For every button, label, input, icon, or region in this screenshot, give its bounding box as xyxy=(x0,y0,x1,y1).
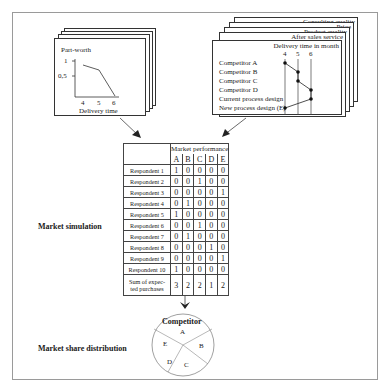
arrow-head-right xyxy=(222,129,230,137)
group-header: Market performance xyxy=(171,144,229,155)
pie-title: Competitor xyxy=(162,317,202,326)
pie-segment-c: C xyxy=(184,361,189,369)
market-simulation-label: Market simulation xyxy=(38,222,102,231)
table-row: Respondent 5 1 0 0 0 0 xyxy=(124,209,229,220)
table-row: Respondent 6 0 0 1 0 0 xyxy=(124,220,229,231)
pie-segment-e: E xyxy=(163,340,167,348)
table-row: Respondent 9 0 0 0 0 1 xyxy=(124,253,229,264)
sum-row: Sum of expec- ted purchases 3 2 2 1 2 xyxy=(124,275,229,296)
market-share-pie: Competitor A B C D E xyxy=(151,313,215,377)
pie-segment-a: A xyxy=(180,328,185,336)
pie-segment-d: D xyxy=(167,358,172,366)
pie-segment-b: B xyxy=(199,342,204,350)
table-row: Respondent 7 0 1 0 0 0 xyxy=(124,231,229,242)
market-share-distribution-label: Market share distribution xyxy=(38,344,127,353)
table-row: Respondent 10 1 0 0 0 0 xyxy=(124,264,229,275)
table-row: Respondent 8 0 0 0 1 0 xyxy=(124,242,229,253)
table-row: Respondent 2 0 0 1 0 0 xyxy=(124,176,229,187)
table-row: Respondent 3 0 0 0 0 1 xyxy=(124,187,229,198)
market-performance-table: Market performance A B C D E Respondent … xyxy=(123,143,229,296)
table-row: Respondent 4 0 1 0 0 0 xyxy=(124,198,229,209)
arrow-head-left xyxy=(132,130,141,138)
table-row: Respondent 1 1 0 0 0 0 xyxy=(124,165,229,176)
table-corner xyxy=(124,144,171,165)
